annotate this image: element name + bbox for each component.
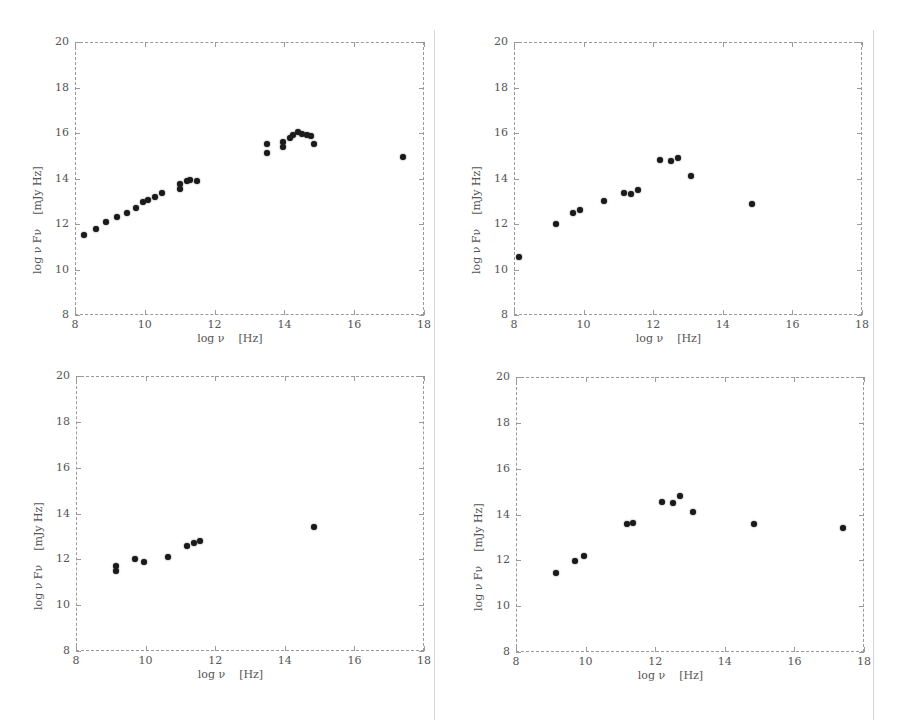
x-tick-mark <box>862 310 863 315</box>
y-axis-label: log ν Fν [mJy Hz] <box>472 503 485 611</box>
x-tick-mark <box>514 42 515 47</box>
y-tick-mark <box>419 179 424 180</box>
x-tick-mark <box>655 377 656 382</box>
x-tick-mark <box>145 310 146 315</box>
y-tick-label: 12 <box>50 552 70 565</box>
x-tick-mark <box>424 42 425 47</box>
x-tick-label: 18 <box>412 654 436 667</box>
data-point <box>197 538 203 544</box>
x-tick-mark <box>76 646 77 651</box>
y-tick-label: 10 <box>50 598 70 611</box>
x-tick-mark <box>584 42 585 47</box>
data-point <box>280 139 286 145</box>
data-point <box>621 190 627 196</box>
x-tick-mark <box>215 310 216 315</box>
x-tick-label: 8 <box>64 654 88 667</box>
data-point <box>194 178 200 184</box>
x-tick-mark <box>723 42 724 47</box>
y-tick-mark <box>76 514 81 515</box>
y-tick-mark <box>514 133 519 134</box>
x-tick-label: 16 <box>782 655 806 668</box>
x-tick-mark <box>75 42 76 47</box>
data-point <box>184 543 190 549</box>
y-tick-mark <box>516 560 521 561</box>
y-tick-mark <box>419 559 424 560</box>
y-tick-mark <box>75 224 80 225</box>
y-tick-mark <box>419 315 424 316</box>
y-tick-mark <box>419 468 424 469</box>
data-point <box>570 210 576 216</box>
x-tick-label: 14 <box>273 654 297 667</box>
x-tick-label: 12 <box>641 318 665 331</box>
data-point <box>677 493 683 499</box>
y-tick-label: 18 <box>490 416 510 429</box>
data-point <box>141 559 147 565</box>
y-tick-label: 14 <box>488 172 508 185</box>
y-tick-mark <box>516 652 521 653</box>
data-point <box>581 553 587 559</box>
y-tick-mark <box>76 651 81 652</box>
y-tick-mark <box>516 423 521 424</box>
y-tick-label: 10 <box>49 263 69 276</box>
y-tick-mark <box>859 423 864 424</box>
y-tick-mark <box>419 133 424 134</box>
x-tick-mark <box>76 376 77 381</box>
x-tick-mark <box>514 310 515 315</box>
y-tick-mark <box>857 315 862 316</box>
x-tick-mark <box>725 377 726 382</box>
y-tick-mark <box>514 88 519 89</box>
y-tick-mark <box>859 515 864 516</box>
x-tick-label: 14 <box>711 318 735 331</box>
x-tick-label: 8 <box>502 318 526 331</box>
x-tick-label: 10 <box>134 654 158 667</box>
x-tick-mark <box>146 646 147 651</box>
y-tick-label: 18 <box>50 415 70 428</box>
y-tick-label: 20 <box>490 370 510 383</box>
y-tick-label: 16 <box>490 462 510 475</box>
y-tick-label: 14 <box>50 507 70 520</box>
y-tick-mark <box>76 605 81 606</box>
x-tick-label: 10 <box>133 318 157 331</box>
y-tick-mark <box>859 560 864 561</box>
data-point <box>553 570 559 576</box>
y-tick-mark <box>857 179 862 180</box>
x-tick-mark <box>215 42 216 47</box>
y-tick-mark <box>419 605 424 606</box>
data-point <box>177 181 183 187</box>
data-point <box>308 133 314 139</box>
x-tick-label: 16 <box>342 318 366 331</box>
y-tick-mark <box>514 270 519 271</box>
y-tick-mark <box>857 224 862 225</box>
x-axis-label: log ν [Hz] <box>197 332 262 345</box>
y-tick-label: 10 <box>488 263 508 276</box>
data-point <box>553 221 559 227</box>
x-tick-label: 10 <box>574 655 598 668</box>
plot-frame <box>75 42 424 315</box>
x-tick-mark <box>354 310 355 315</box>
data-point <box>187 177 193 183</box>
y-tick-mark <box>516 515 521 516</box>
x-tick-label: 16 <box>780 318 804 331</box>
x-axis-label: log ν [Hz] <box>198 668 263 681</box>
x-tick-mark <box>586 377 587 382</box>
x-tick-mark <box>516 647 517 652</box>
x-tick-mark <box>354 42 355 47</box>
y-tick-mark <box>514 224 519 225</box>
y-tick-label: 16 <box>488 126 508 139</box>
x-tick-mark <box>215 646 216 651</box>
x-tick-mark <box>794 647 795 652</box>
x-tick-mark <box>354 646 355 651</box>
y-tick-mark <box>76 468 81 469</box>
x-tick-mark <box>864 647 865 652</box>
x-tick-mark <box>354 376 355 381</box>
x-tick-mark <box>284 42 285 47</box>
y-axis-label: log ν Fν [mJy Hz] <box>31 166 44 274</box>
x-tick-label: 14 <box>272 318 296 331</box>
y-tick-label: 20 <box>49 35 69 48</box>
x-tick-mark <box>862 42 863 47</box>
y-tick-mark <box>75 270 80 271</box>
y-tick-mark <box>859 606 864 607</box>
y-tick-mark <box>419 422 424 423</box>
y-tick-label: 16 <box>50 461 70 474</box>
y-tick-label: 14 <box>49 172 69 185</box>
